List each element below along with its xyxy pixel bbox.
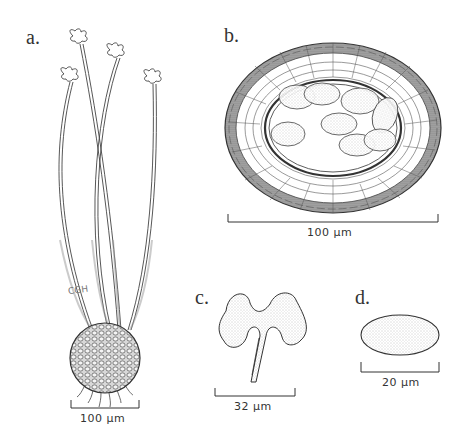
stalk-tips [61,29,161,83]
figure-drawing [0,0,464,436]
scale-bar-b [228,214,438,222]
scale-bar-c [215,388,295,396]
spherical-base [70,323,140,407]
panel-b-drawing [225,43,441,213]
panel-d-drawing [361,315,439,355]
scale-bar-d [361,362,439,372]
panel-c-drawing [219,293,306,382]
scale-label-c: 32 µm [234,400,272,413]
scale-bar-a [71,400,139,408]
scale-label-d: 20 µm [382,376,420,389]
scale-label-a: 100 µm [80,412,125,425]
scale-label-b: 100 µm [307,226,352,239]
